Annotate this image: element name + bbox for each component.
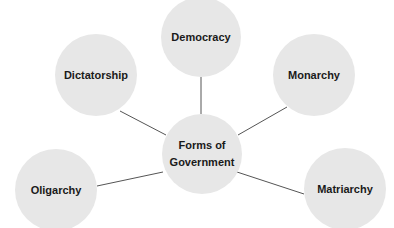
center-label-line2: Government	[170, 154, 235, 171]
link-matriarchy	[237, 172, 304, 194]
node-oligarchy: Oligarchy	[15, 149, 97, 228]
node-label: Monarchy	[288, 67, 340, 84]
center-label-line1: Forms of	[178, 137, 225, 154]
node-label: Dictatorship	[64, 67, 128, 84]
forms-of-government-diagram: Democracy Dictatorship Monarchy Oligarch…	[0, 0, 394, 228]
node-dictatorship: Dictatorship	[55, 34, 137, 116]
link-oligarchy	[97, 172, 163, 186]
node-label: Oligarchy	[31, 182, 82, 199]
node-monarchy: Monarchy	[273, 34, 355, 116]
node-label: Democracy	[171, 29, 230, 46]
center-node-forms-of-government: Forms of Government	[162, 114, 242, 194]
node-label: Matriarchy	[317, 181, 373, 198]
node-democracy: Democracy	[161, 0, 241, 77]
node-matriarchy: Matriarchy	[304, 148, 386, 228]
link-monarchy	[238, 107, 287, 135]
link-dictatorship	[120, 111, 166, 135]
